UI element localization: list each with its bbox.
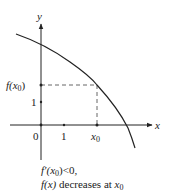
origin-dot bbox=[40, 124, 43, 127]
x-tick-x0-dot bbox=[96, 124, 99, 127]
origin-label: 0 bbox=[33, 130, 39, 142]
y-tick-fx0-dot bbox=[40, 84, 43, 87]
y-tick-fx0-label: f(x0) bbox=[6, 79, 26, 93]
x-tick-1-label: 1 bbox=[61, 130, 67, 142]
caption-line-2: f(x) decreases at x0 bbox=[41, 178, 123, 194]
y-tick-1-label: 1 bbox=[31, 96, 37, 108]
y-tick-1-dot bbox=[40, 101, 42, 103]
y-axis-label: y bbox=[36, 10, 42, 22]
x-tick-1-dot bbox=[63, 124, 65, 126]
x-axis-label: x bbox=[154, 119, 160, 131]
x-tick-x0-label: x0 bbox=[90, 130, 100, 144]
function-graph: y x 0 1 x0 1 f(x0) bbox=[0, 0, 170, 195]
